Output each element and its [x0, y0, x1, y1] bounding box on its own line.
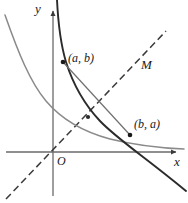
point-label-ab: (a, b): [68, 52, 94, 64]
point-label-ba: (b, a): [134, 118, 160, 130]
mirror-line-label: M: [141, 58, 152, 71]
marker-point-ba: [128, 133, 133, 138]
x-axis-label: x: [174, 155, 180, 168]
origin-label: O: [57, 155, 66, 167]
y-axis-label: y: [35, 2, 41, 15]
curve-original-function: [57, 0, 186, 191]
math-figure: y x O (a, b) (b, a) M: [0, 0, 188, 203]
marker-intersection-on-m: [86, 115, 90, 119]
marker-point-ab: [61, 60, 66, 65]
figure-canvas: [0, 0, 188, 203]
